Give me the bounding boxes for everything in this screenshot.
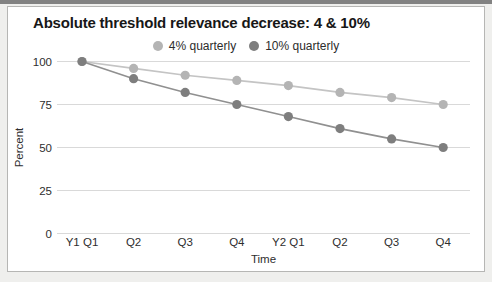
legend-label: 4% quarterly (169, 39, 236, 53)
book-photo: 1007550250Y1 Q1Q2Q3Q4Y2 Q1Q2Q3Q4PercentT… (0, 0, 492, 282)
x-tick-label: Q2 (126, 236, 141, 248)
x-axis-title: Time (251, 253, 276, 265)
legend-item-10pct: 10% quarterly (249, 39, 339, 53)
x-tick-label: Q3 (178, 236, 193, 248)
data-point (129, 64, 138, 73)
data-point (284, 81, 293, 90)
data-point (387, 134, 396, 143)
x-tick-label: Q3 (384, 236, 399, 248)
data-point (387, 93, 396, 102)
data-point (335, 124, 344, 133)
legend-item-4pct: 4% quarterly (153, 39, 236, 53)
x-tick-label: Y1 Q1 (66, 236, 99, 248)
x-tick-label: Y2 Q1 (272, 236, 305, 248)
x-tick-label: Q4 (229, 236, 245, 248)
data-point (335, 88, 344, 97)
data-point (439, 100, 448, 109)
x-tick-label: Q4 (436, 236, 452, 248)
y-tick-label: 75 (39, 99, 52, 111)
data-point (181, 88, 190, 97)
y-tick-label: 50 (39, 142, 52, 154)
data-point (77, 57, 86, 66)
y-tick-label: 0 (46, 228, 52, 240)
data-point (439, 143, 448, 152)
y-tick-label: 25 (39, 185, 52, 197)
chart-card: 1007550250Y1 Q1Q2Q3Q4Y2 Q1Q2Q3Q4PercentT… (7, 6, 485, 272)
photo-top-edge (0, 0, 492, 4)
x-tick-label: Q2 (332, 236, 347, 248)
data-point (232, 76, 241, 85)
data-point (284, 112, 293, 121)
legend-label: 10% quarterly (265, 39, 339, 53)
data-point (232, 100, 241, 109)
legend-dot-4pct-icon (153, 41, 163, 51)
y-axis-title: Percent (13, 127, 25, 167)
y-tick-label: 100 (33, 56, 52, 68)
legend-dot-10pct-icon (249, 41, 259, 51)
data-point (129, 74, 138, 83)
data-point (181, 71, 190, 80)
chart-legend: 4% quarterly 10% quarterly (8, 39, 484, 53)
